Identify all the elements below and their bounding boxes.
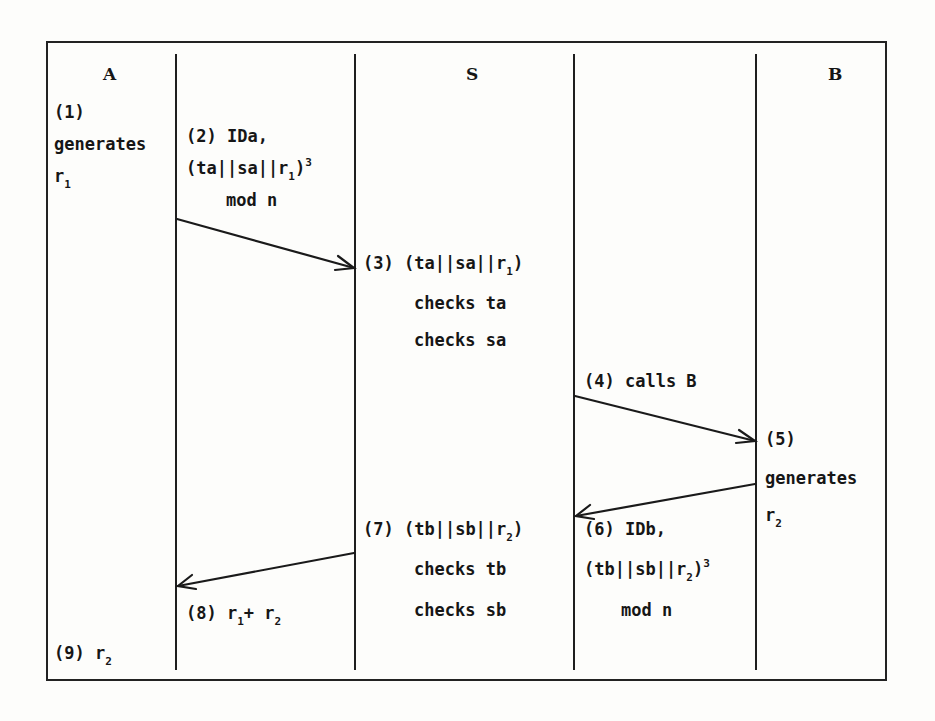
message-arrows	[0, 0, 935, 721]
arrow-b-to-s	[576, 484, 755, 519]
arrow-a-to-s	[177, 219, 354, 270]
arrow-s-to-b	[575, 396, 755, 443]
arrow-s-to-a	[178, 553, 354, 589]
